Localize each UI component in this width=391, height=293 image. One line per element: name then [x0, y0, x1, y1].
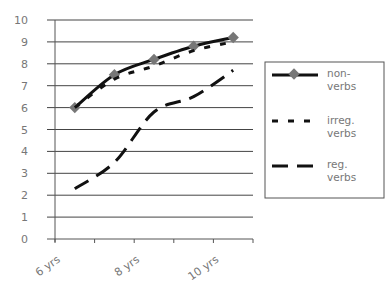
legend-label-line2: verbs [327, 171, 356, 183]
y-tick-label: 2 [21, 189, 28, 202]
y-tick-label: 0 [21, 233, 28, 246]
y-tick-label: 3 [21, 167, 28, 180]
legend-label-line1: reg. [327, 158, 348, 170]
legend-box [265, 62, 384, 198]
legend-label-line1: non- [327, 67, 351, 79]
legend: non- verbs irreg. verbs reg. verbs [265, 62, 384, 198]
x-tick-label: 6 yrs [33, 253, 63, 279]
y-tick-label: 1 [21, 211, 28, 224]
y-tick-label: 10 [14, 14, 28, 27]
y-tick-label: 9 [21, 36, 28, 49]
x-tick-label: 10 yrs [186, 253, 222, 283]
y-tick-label: 8 [21, 58, 28, 71]
y-tick-label: 4 [21, 145, 28, 158]
legend-label-line2: verbs [327, 127, 356, 139]
y-tick-label: 5 [21, 124, 28, 137]
x-axis: 6 yrs8 yrs10 yrs [33, 239, 253, 283]
legend-label-line2: verbs [327, 80, 356, 92]
line-chart: 012345678910 6 yrs8 yrs10 yrs non- verbs… [0, 0, 391, 293]
y-tick-label: 7 [21, 80, 28, 93]
series-line-irreg-verbs [75, 42, 233, 108]
y-tick-label: 6 [21, 102, 28, 115]
legend-label-line1: irreg. [327, 114, 355, 126]
data-series [69, 32, 239, 189]
x-tick-label: 8 yrs [112, 253, 142, 279]
